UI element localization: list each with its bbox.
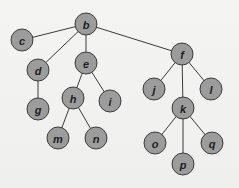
node-label: n [93,133,100,145]
node-c: c [11,29,33,51]
node-label: c [19,35,25,47]
node-label: d [35,65,42,77]
node-p: p [172,153,194,175]
node-label: k [180,103,187,115]
node-e: e [75,52,97,74]
node-b: b [75,13,97,35]
node-label: b [83,19,90,31]
node-i: i [99,90,121,112]
node-j: j [143,78,165,100]
node-f: f [171,43,193,65]
node-label: o [152,138,159,150]
node-m: m [47,127,69,149]
node-label: q [209,138,216,150]
node-n: n [85,127,107,149]
node-label: h [70,93,77,105]
node-label: e [83,58,89,70]
tree-diagram: bcdefghijklmnopq [0,0,239,188]
nodes-layer: bcdefghijklmnopq [11,13,223,175]
node-o: o [144,132,166,154]
node-l: l [200,78,222,100]
node-label: m [53,133,63,145]
tree-diagram-svg: bcdefghijklmnopq [0,0,239,188]
node-k: k [172,97,194,119]
node-d: d [27,59,49,81]
node-q: q [201,132,223,154]
node-h: h [62,87,84,109]
node-g: g [27,98,49,120]
node-label: p [179,159,187,171]
node-label: g [34,104,42,116]
edge-b-f [86,24,182,54]
